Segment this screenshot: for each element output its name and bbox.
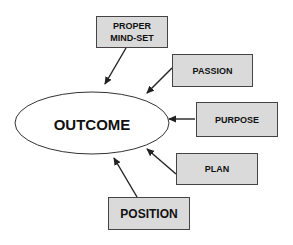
node-passion: PASSION: [173, 55, 253, 87]
proper-mind-set-label: PROPER: [113, 21, 152, 31]
node-position: POSITION: [109, 198, 190, 230]
node-plan: PLAN: [177, 154, 258, 185]
arrow-passion-to-outcome: [147, 68, 172, 93]
position-label: POSITION: [120, 207, 177, 221]
arrow-proper-mind-set-to-outcome: [105, 48, 126, 84]
outcome-node: OUTCOME: [15, 92, 169, 154]
plan-label: PLAN: [205, 164, 230, 174]
node-purpose: PURPOSE: [197, 103, 278, 137]
arrow-position-to-outcome: [114, 158, 137, 197]
node-proper-mind-set: PROPERMIND-SET: [97, 17, 168, 48]
proper-mind-set-label: MIND-SET: [110, 33, 154, 43]
purpose-label: PURPOSE: [215, 115, 259, 125]
outcome-diagram: OUTCOME PROPERMIND-SETPASSIONPURPOSEPLAN…: [0, 0, 293, 245]
outcome-label: OUTCOME: [54, 116, 131, 133]
arrow-plan-to-outcome: [147, 149, 176, 174]
passion-label: PASSION: [193, 66, 233, 76]
